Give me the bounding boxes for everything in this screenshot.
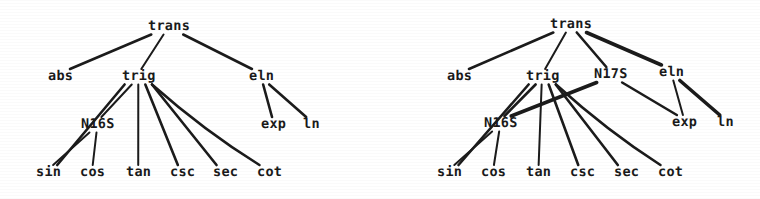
tree-node-sec: sec	[614, 166, 639, 180]
tree-node-cos: cos	[80, 166, 105, 180]
tree-node-csc: csc	[570, 166, 595, 180]
tree-node-eln: eln	[659, 66, 684, 80]
figure-canvas: transabstrigelnN16Sexplnsincostancscsecc…	[0, 0, 760, 199]
tree-node-sin: sin	[437, 166, 462, 180]
tree-edge	[53, 133, 89, 166]
tree-node-n17s: N17S	[594, 68, 628, 82]
tree-node-ln: ln	[303, 118, 320, 132]
tree-edge	[70, 35, 151, 70]
tree-edge	[511, 83, 596, 117]
tree-node-tan: tan	[126, 166, 151, 180]
tree-node-tan: tan	[526, 166, 551, 180]
tree-edge	[141, 35, 163, 70]
tree-edge	[494, 132, 499, 166]
tree-node-ln: ln	[717, 116, 734, 130]
tree-edge	[680, 81, 720, 116]
tree-node-sin: sin	[36, 166, 61, 180]
tree-node-n16s: N16S	[81, 118, 115, 132]
tree-node-cos: cos	[481, 166, 506, 180]
tree-node-cot: cot	[257, 166, 282, 180]
tree-edge	[183, 35, 252, 70]
tree-edge	[101, 85, 131, 118]
tree-node-abs: abs	[447, 70, 472, 84]
tree-edge	[539, 85, 542, 166]
tree-node-exp: exp	[261, 118, 286, 132]
tree-edge	[454, 132, 492, 166]
tree-node-eln: eln	[249, 70, 274, 84]
tree-edge	[622, 83, 677, 116]
tree-edge	[469, 33, 553, 70]
tree-edge-layer	[0, 0, 760, 199]
tree-node-trans: trans	[550, 18, 592, 32]
tree-node-trig: trig	[122, 70, 156, 84]
tree-edge	[263, 85, 272, 118]
tree-edge	[545, 33, 566, 70]
tree-edge	[587, 33, 662, 66]
tree-node-sec: sec	[213, 166, 238, 180]
tree-edge	[93, 133, 97, 166]
tree-node-csc: csc	[170, 166, 195, 180]
tree-node-cot: cot	[658, 166, 683, 180]
tree-node-exp: exp	[672, 116, 697, 130]
tree-node-trig: trig	[526, 70, 560, 84]
tree-node-trans: trans	[148, 20, 190, 34]
tree-edge	[673, 81, 683, 116]
tree-node-n16s: N16S	[484, 117, 518, 131]
tree-node-abs: abs	[48, 70, 73, 84]
tree-edge	[269, 85, 306, 118]
